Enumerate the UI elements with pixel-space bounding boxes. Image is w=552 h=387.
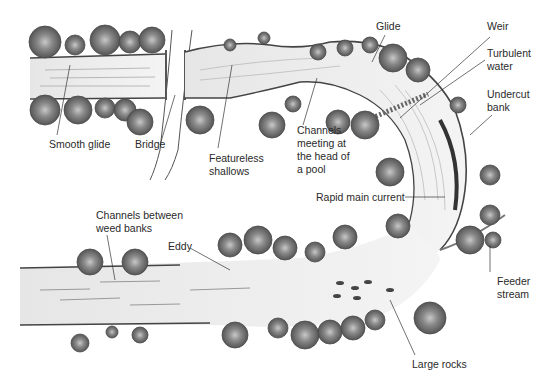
label-weir: Weir bbox=[487, 20, 508, 33]
label-large-rocks: Large rocks bbox=[412, 358, 467, 371]
label-turbulent-water: Turbulentwater bbox=[487, 47, 531, 73]
label-eddy: Eddy bbox=[168, 240, 192, 253]
upper-river-left bbox=[30, 52, 165, 98]
label-featureless-shallows: Featurelessshallows bbox=[209, 152, 264, 178]
label-channels-between-weed-banks: Channels betweenweed banks bbox=[96, 209, 183, 235]
river-features-diagram: Smooth glide Bridge Featurelessshallows … bbox=[0, 0, 552, 387]
label-rapid-main-current: Rapid main current bbox=[316, 191, 405, 204]
label-undercut-bank: Undercutbank bbox=[487, 88, 530, 114]
label-feeder-stream: Feederstream bbox=[497, 275, 530, 301]
label-channels-meeting: Channelsmeeting atthe head ofa pool bbox=[297, 124, 350, 176]
river-illustration bbox=[0, 0, 552, 387]
label-smooth-glide: Smooth glide bbox=[49, 138, 110, 151]
label-bridge: Bridge bbox=[135, 138, 165, 151]
label-glide: Glide bbox=[376, 20, 401, 33]
